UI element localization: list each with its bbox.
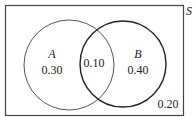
set-b-label: B xyxy=(134,47,142,61)
intersection-value: 0.10 xyxy=(84,56,105,70)
universe-label: S xyxy=(186,4,192,18)
venn-diagram: S A 0.30 0.10 B 0.40 0.20 xyxy=(0,0,194,117)
outside-value: 0.20 xyxy=(158,97,179,111)
set-a-label: A xyxy=(47,47,56,61)
set-a-only-value: 0.30 xyxy=(42,63,63,77)
set-b-only-value: 0.40 xyxy=(128,63,149,77)
